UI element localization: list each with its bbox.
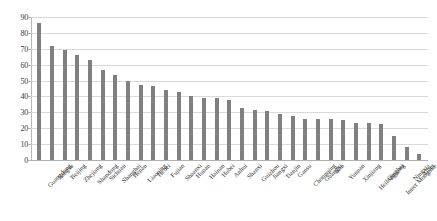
x-axis-labels: GuangdongJiangsuBeijingZhejiangShandongS…	[31, 162, 428, 221]
bar-slot	[388, 17, 401, 160]
bar-slot	[312, 17, 325, 160]
bar	[354, 123, 358, 160]
x-axis-label-slot: Heilongjiang	[362, 162, 375, 221]
x-axis-label-slot: Hainan	[198, 162, 211, 221]
bar-slot	[122, 17, 135, 160]
x-axis-label-slot: Xinjiang	[350, 162, 363, 221]
x-axis-label-slot: Inner Mongolia	[388, 162, 401, 221]
x-axis-label-slot: Shanxi	[236, 162, 249, 221]
y-axis-tick-label: 90	[20, 13, 28, 22]
x-axis-label-slot: Hebei	[147, 162, 160, 221]
y-axis-tick-label: 40	[20, 92, 28, 101]
bar-slot	[236, 17, 249, 160]
bar-slot	[160, 17, 173, 160]
y-axis-tick-label: 10	[20, 140, 28, 149]
bar	[253, 110, 257, 160]
bar	[329, 119, 333, 160]
bar	[37, 23, 41, 160]
plot-area	[31, 17, 428, 160]
x-axis-label-slot: Shandong	[84, 162, 97, 221]
bar-slot	[324, 17, 337, 160]
bar	[341, 120, 345, 160]
bar-slot	[46, 17, 59, 160]
x-axis-label-slot: Ningxia	[400, 162, 413, 221]
bar	[215, 98, 219, 160]
axis-baseline	[31, 160, 428, 161]
bar-slot	[172, 17, 185, 160]
bar	[405, 147, 409, 161]
bar-slot	[185, 17, 198, 160]
x-axis-label-slot: Guangxi	[312, 162, 325, 221]
x-axis-label-slot: Jiangsu	[46, 162, 59, 221]
x-axis-label-slot: Henan	[122, 162, 135, 221]
y-axis-tick-label: 50	[20, 76, 28, 85]
bar	[101, 70, 105, 160]
bar-slot	[147, 17, 160, 160]
bar	[227, 100, 231, 160]
bar	[392, 136, 396, 160]
bar-slot	[400, 17, 413, 160]
bar-slot	[71, 17, 84, 160]
bar-slot	[362, 17, 375, 160]
y-axis-tick-label: 30	[20, 108, 28, 117]
x-axis-label-slot: Guangdong	[33, 162, 46, 221]
bar	[177, 92, 181, 160]
y-axis-tick-label: 60	[20, 60, 28, 69]
bar-slot	[198, 17, 211, 160]
x-axis-label-slot: Jilin	[324, 162, 337, 221]
bar	[189, 96, 193, 160]
x-axis-label-slot: Chongqing	[299, 162, 312, 221]
bar	[367, 123, 371, 160]
bar-slot	[58, 17, 71, 160]
x-axis-label-slot: Gansu	[286, 162, 299, 221]
bar-slot	[413, 17, 426, 160]
x-axis-label-slot: Shaanxi	[172, 162, 185, 221]
bar-slot	[337, 17, 350, 160]
y-axis: 0102030405060708090	[0, 0, 28, 221]
bar-slot	[134, 17, 147, 160]
bar-slot	[109, 17, 122, 160]
bar-slot	[299, 17, 312, 160]
bar	[202, 98, 206, 160]
bar	[303, 119, 307, 160]
bar-slot	[84, 17, 97, 160]
bar-slot	[375, 17, 388, 160]
bar	[50, 46, 54, 160]
x-axis-label-slot: Guizhou	[248, 162, 261, 221]
bar-slot	[248, 17, 261, 160]
x-axis-label-slot: Yunnan	[337, 162, 350, 221]
bar-slot	[33, 17, 46, 160]
bar	[88, 60, 92, 160]
bar-slot	[286, 17, 299, 160]
bar-series	[31, 17, 428, 160]
bar	[164, 90, 168, 160]
bar	[265, 111, 269, 160]
x-axis-label-slot: Tibet	[413, 162, 426, 221]
bar	[75, 55, 79, 160]
bar	[139, 85, 143, 160]
bar-slot	[210, 17, 223, 160]
bar-slot	[274, 17, 287, 160]
bar-slot	[223, 17, 236, 160]
x-axis-label-slot: Jiangxi	[261, 162, 274, 221]
bar	[113, 75, 117, 160]
bar-slot	[261, 17, 274, 160]
x-axis-label-slot: Tianjin	[274, 162, 287, 221]
x-axis-label-slot: Sichuan	[96, 162, 109, 221]
bar	[417, 154, 421, 160]
x-axis-label-slot: Qinghai	[375, 162, 388, 221]
x-axis-label-slot: Beijing	[58, 162, 71, 221]
x-axis-label-slot: Liaoning	[134, 162, 147, 221]
x-axis-label-slot: Anhui	[223, 162, 236, 221]
y-axis-tick-label: 20	[20, 124, 28, 133]
y-axis-tick-label: 80	[20, 28, 28, 37]
bar	[151, 86, 155, 160]
bar	[379, 124, 383, 160]
x-axis-label-slot: Fujian	[160, 162, 173, 221]
bar-chart: 0102030405060708090 GuangdongJiangsuBeij…	[0, 0, 437, 221]
bar	[291, 116, 295, 160]
bar-slot	[350, 17, 363, 160]
x-axis-label-slot: Zhejiang	[71, 162, 84, 221]
x-axis-label-slot: Hunan	[185, 162, 198, 221]
bar-slot	[96, 17, 109, 160]
